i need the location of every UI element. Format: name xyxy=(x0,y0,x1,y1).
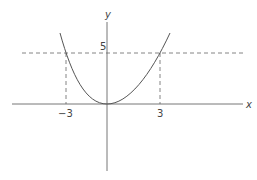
x-tick-label-3: 3 xyxy=(157,108,163,119)
parabola-curve xyxy=(60,33,170,104)
y-tick-label-5: 5 xyxy=(100,41,106,52)
x-tick-label-neg3: −3 xyxy=(58,108,73,119)
parabola-diagram: y x 5 −3 3 xyxy=(0,0,257,180)
y-axis-label: y xyxy=(104,9,112,20)
x-axis-label: x xyxy=(245,99,252,110)
